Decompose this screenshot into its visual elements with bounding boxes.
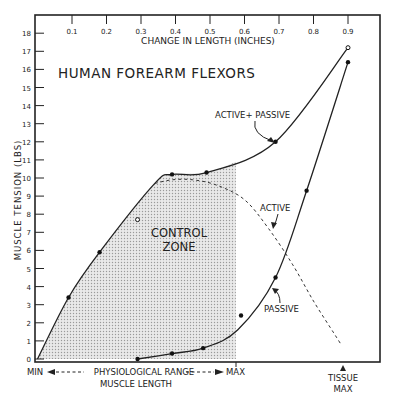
x-tick-label: 0.7 xyxy=(273,28,284,36)
y-tick-label: 7 xyxy=(27,229,31,237)
tissue-max-label: TISSUE xyxy=(327,373,358,383)
data-point xyxy=(97,250,101,254)
muscle-length-label: MUSCLE LENGTH xyxy=(100,379,172,389)
y-tick-label: 10 xyxy=(22,175,31,183)
y-tick-label: 13 xyxy=(22,121,31,129)
y-tick-label: 12 xyxy=(22,139,31,147)
y-tick-label: 9 xyxy=(27,193,31,201)
data-point xyxy=(170,172,174,176)
y-tick-label: 15 xyxy=(22,85,31,93)
x-axis-ticks: 0.10.20.30.40.50.60.70.80.9 xyxy=(66,15,353,36)
y-tick-label: 16 xyxy=(22,66,31,74)
x-tick-label: 0.9 xyxy=(342,28,353,36)
tissue-max-label-2: MAX xyxy=(334,384,353,394)
control-zone-shading xyxy=(38,162,236,359)
x-axis-top-label: CHANGE IN LENGTH (INCHES) xyxy=(141,36,275,46)
data-point xyxy=(346,60,350,64)
arrowhead xyxy=(271,222,277,229)
y-tick-label: 18 xyxy=(22,30,31,38)
control-zone-label-2: ZONE xyxy=(163,240,196,254)
y-tick-label: 2 xyxy=(27,320,31,328)
x-tick-label: 0.3 xyxy=(135,28,146,36)
tissue-max-arrowhead xyxy=(340,365,346,371)
data-point xyxy=(204,170,208,174)
data-point-open xyxy=(136,218,140,222)
x-tick-label: 0.5 xyxy=(204,28,215,36)
y-tick-label: 4 xyxy=(27,284,32,292)
control-zone-label: CONTROL xyxy=(151,226,208,240)
data-point xyxy=(239,313,243,317)
data-point xyxy=(304,188,308,192)
x-tick-label: 0.6 xyxy=(239,28,251,36)
data-point-open xyxy=(346,46,350,50)
chart-title: HUMAN FOREARM FLEXORS xyxy=(58,65,255,81)
y-tick-label: 1 xyxy=(27,338,31,346)
x-tick-label: 0.8 xyxy=(308,28,319,36)
x-tick-label: 0.2 xyxy=(101,28,112,36)
active-passive-label: ACTIVE+ PASSIVE xyxy=(215,110,290,120)
data-point xyxy=(170,351,174,355)
max-label: MAX xyxy=(226,367,245,377)
data-point xyxy=(201,346,205,350)
active-passive-arrow xyxy=(255,121,272,141)
y-tick-label: 0 xyxy=(27,356,31,364)
min-label: MIN xyxy=(27,367,43,377)
data-point xyxy=(66,295,70,299)
physiological-range-label: PHYSIOLOGICAL RANGE xyxy=(94,367,194,377)
passive-label: PASSIVE xyxy=(264,304,299,314)
y-axis-label: MUSCLE TENSION (LBS) xyxy=(13,140,23,261)
y-tick-label: 11 xyxy=(22,157,31,165)
data-point xyxy=(135,357,139,361)
x-tick-label: 0.1 xyxy=(66,28,77,36)
y-tick-label: 5 xyxy=(27,266,31,274)
data-point xyxy=(273,275,277,279)
y-tick-label: 6 xyxy=(27,247,32,255)
muscle-tension-chart: 0123456789101112131415161718 0.10.20.30.… xyxy=(0,0,395,401)
active-label: ACTIVE xyxy=(260,203,291,213)
max-arrowhead xyxy=(215,369,224,375)
arrowhead xyxy=(267,137,275,143)
y-tick-label: 3 xyxy=(27,302,31,310)
min-arrowhead xyxy=(47,369,55,375)
y-tick-label: 17 xyxy=(22,48,31,56)
y-axis-ticks: 0123456789101112131415161718 xyxy=(22,30,44,364)
y-tick-label: 8 xyxy=(27,211,31,219)
y-tick-label: 14 xyxy=(22,103,31,111)
x-tick-label: 0.4 xyxy=(170,28,182,36)
